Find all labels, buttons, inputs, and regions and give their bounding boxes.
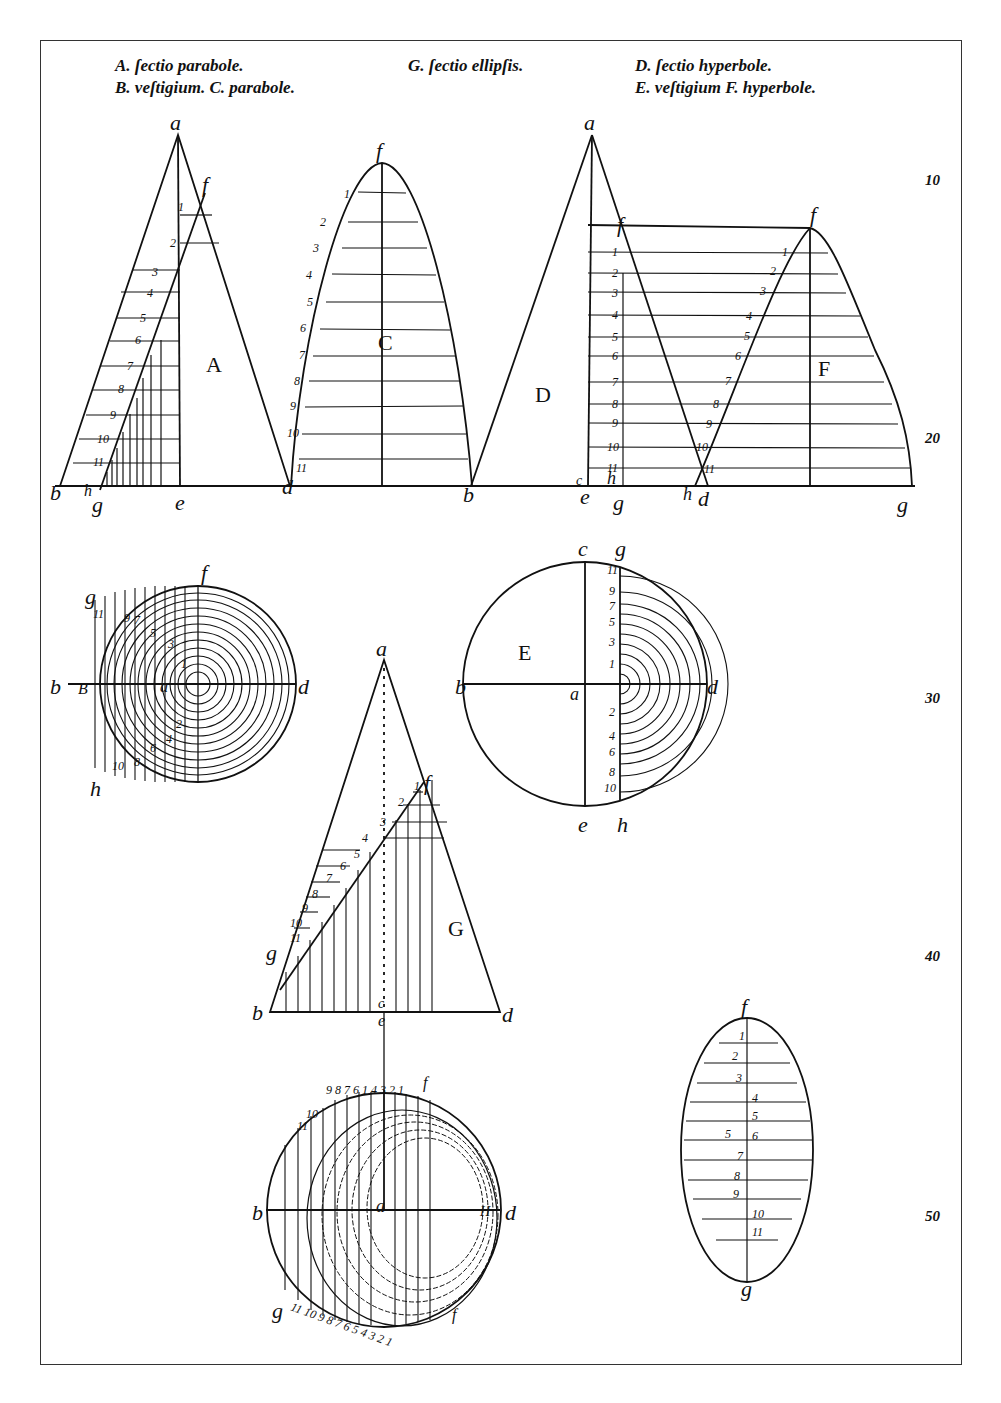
figure-hyperbola-footprint	[463, 562, 728, 806]
svg-text:3: 3	[759, 284, 766, 298]
svg-text:11: 11	[607, 461, 618, 475]
svg-text:8: 8	[734, 1169, 740, 1183]
svg-text:a: a	[376, 1196, 385, 1216]
svg-text:7: 7	[737, 1149, 744, 1163]
svg-text:3: 3	[167, 637, 174, 651]
svg-text:5: 5	[150, 626, 156, 640]
svg-text:11: 11	[752, 1225, 763, 1239]
svg-text:2: 2	[770, 264, 776, 278]
svg-text:a: a	[584, 110, 595, 135]
svg-text:4: 4	[612, 308, 618, 322]
svg-text:11: 11	[704, 462, 715, 476]
svg-text:g: g	[613, 490, 624, 515]
svg-text:2: 2	[320, 215, 326, 229]
svg-text:g: g	[266, 940, 277, 965]
figure-parabola	[291, 163, 472, 486]
svg-text:a: a	[160, 678, 168, 695]
svg-text:6: 6	[300, 321, 306, 335]
figure-hyperbola	[588, 228, 912, 486]
svg-text:6: 6	[135, 333, 141, 347]
svg-text:1: 1	[414, 779, 420, 793]
svg-text:7: 7	[612, 375, 619, 389]
svg-text:6: 6	[609, 745, 615, 759]
svg-text:g: g	[272, 1298, 283, 1323]
svg-text:A: A	[206, 352, 222, 377]
svg-text:10: 10	[696, 440, 708, 454]
svg-text:1: 1	[739, 1029, 745, 1043]
svg-text:6: 6	[752, 1129, 758, 1143]
svg-text:4: 4	[609, 729, 615, 743]
svg-text:9: 9	[733, 1187, 739, 1201]
figure-parabola-cone	[60, 135, 290, 490]
svg-text:11: 11	[93, 607, 104, 621]
svg-text:d: d	[298, 674, 310, 699]
svg-text:f: f	[376, 138, 385, 163]
svg-text:5: 5	[609, 615, 615, 629]
svg-text:d: d	[707, 674, 719, 699]
svg-text:10: 10	[607, 440, 619, 454]
svg-text:8: 8	[312, 887, 318, 901]
svg-text:5: 5	[612, 330, 618, 344]
svg-text:g: g	[897, 492, 908, 517]
svg-text:F: F	[818, 356, 830, 381]
svg-text:f: f	[201, 560, 210, 585]
svg-text:9: 9	[609, 584, 615, 598]
svg-text:6: 6	[735, 349, 741, 363]
svg-text:g: g	[741, 1276, 752, 1301]
svg-text:b: b	[252, 1200, 263, 1225]
svg-text:4: 4	[166, 732, 172, 746]
svg-text:f: f	[810, 202, 819, 227]
svg-text:4: 4	[746, 309, 752, 323]
svg-text:1: 1	[609, 657, 615, 671]
svg-text:9: 9	[302, 901, 308, 915]
svg-text:7: 7	[299, 348, 306, 362]
svg-text:11: 11	[290, 931, 301, 945]
svg-text:10: 10	[97, 432, 109, 446]
svg-text:E: E	[518, 640, 531, 665]
svg-text:6: 6	[612, 349, 618, 363]
svg-text:5: 5	[744, 329, 750, 343]
svg-text:9 8 7 6 1 4 3 2 1: 9 8 7 6 1 4 3 2 1	[326, 1083, 404, 1097]
svg-text:2: 2	[612, 266, 618, 280]
svg-text:H: H	[479, 1204, 491, 1219]
svg-text:h: h	[617, 812, 628, 837]
svg-text:11: 11	[296, 461, 307, 475]
svg-text:10: 10	[752, 1207, 764, 1221]
svg-text:a: a	[170, 110, 181, 135]
figure-ellipse-cone	[270, 660, 500, 1012]
svg-text:2: 2	[609, 705, 615, 719]
figure-hyperbola-cone	[471, 135, 810, 486]
svg-text:h: h	[683, 484, 692, 504]
svg-text:8: 8	[609, 765, 615, 779]
svg-text:5: 5	[725, 1127, 731, 1141]
svg-text:7: 7	[326, 871, 333, 885]
svg-text:d: d	[505, 1200, 517, 1225]
svg-text:b: b	[50, 674, 61, 699]
svg-text:a: a	[376, 636, 387, 661]
svg-text:10: 10	[112, 759, 124, 773]
svg-text:2: 2	[170, 236, 176, 250]
svg-text:5: 5	[307, 295, 313, 309]
svg-text:9: 9	[124, 611, 130, 625]
svg-text:1: 1	[181, 657, 187, 671]
svg-text:8: 8	[134, 755, 140, 769]
svg-text:5: 5	[140, 311, 146, 325]
svg-text:g: g	[615, 536, 626, 561]
svg-text:8: 8	[612, 397, 618, 411]
svg-text:9: 9	[110, 408, 116, 422]
svg-text:d: d	[698, 486, 710, 511]
svg-text:5: 5	[354, 847, 360, 861]
svg-text:9: 9	[612, 416, 618, 430]
figure-ellipse	[681, 904, 813, 1282]
svg-text:D: D	[535, 382, 551, 407]
svg-text:b: b	[455, 674, 466, 699]
svg-text:e: e	[580, 484, 590, 509]
svg-text:3: 3	[735, 1071, 742, 1085]
svg-text:8: 8	[294, 374, 300, 388]
svg-text:8: 8	[713, 397, 719, 411]
svg-text:11 10 9 8 7 6 5 4 3 2 1: 11 10 9 8 7 6 5 4 3 2 1	[289, 1300, 394, 1350]
svg-text:c: c	[578, 536, 588, 561]
svg-text:d: d	[502, 1002, 514, 1027]
svg-text:1: 1	[178, 200, 184, 214]
svg-text:4: 4	[752, 1091, 758, 1105]
